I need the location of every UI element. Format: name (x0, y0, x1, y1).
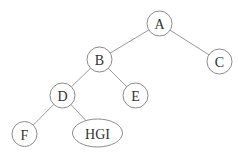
node-hgi: HGI (73, 119, 123, 147)
node-f: F (12, 122, 37, 147)
node-b: B (87, 47, 112, 72)
tree-diagram: ABCDEFHGI (0, 0, 238, 155)
node-label: E (131, 89, 140, 104)
node-label: B (95, 53, 104, 68)
node-label: A (154, 17, 165, 32)
node-label: C (215, 55, 224, 70)
node-e: E (123, 83, 148, 108)
node-label: D (57, 89, 67, 104)
edges-group (25, 24, 220, 135)
nodes-group: ABCDEFHGI (12, 11, 232, 147)
node-a: A (147, 11, 172, 36)
node-label: F (21, 128, 29, 143)
node-c: C (207, 49, 232, 74)
node-label: HGI (85, 127, 110, 142)
node-d: D (50, 83, 75, 108)
